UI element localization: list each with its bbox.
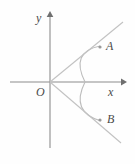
parabola-curve bbox=[80, 46, 101, 121]
figure-canvas bbox=[0, 0, 135, 164]
point-b-label: B bbox=[107, 113, 114, 125]
point-a-marker bbox=[98, 45, 101, 48]
y-axis-arrow-icon bbox=[47, 11, 54, 17]
origin-label: O bbox=[36, 86, 45, 98]
x-axis-arrow-icon bbox=[121, 79, 127, 86]
point-a-label: A bbox=[106, 40, 113, 52]
y-axis-label: y bbox=[36, 12, 41, 24]
math-figure: y x O A B bbox=[0, 0, 135, 164]
x-axis-label: x bbox=[108, 86, 113, 98]
point-b-marker bbox=[98, 118, 101, 121]
